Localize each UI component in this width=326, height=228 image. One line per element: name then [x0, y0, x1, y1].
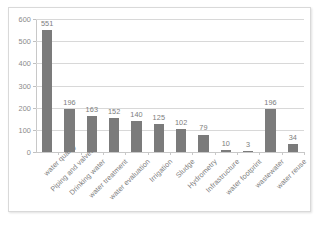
gridline	[36, 19, 304, 20]
x-axis-tick	[237, 152, 238, 155]
x-axis-tick	[192, 152, 193, 155]
y-axis-tick-label: 500	[19, 37, 31, 46]
y-axis-tick-label: 400	[19, 59, 31, 68]
y-axis-tick	[33, 63, 36, 64]
plot-area: 0100200300400500600551196163152140125102…	[36, 19, 304, 152]
gridline	[36, 130, 304, 131]
gridline	[36, 63, 304, 64]
gridline	[36, 41, 304, 42]
y-axis-tick	[33, 41, 36, 42]
bar[interactable]	[154, 124, 164, 152]
y-axis-tick-label: 200	[19, 103, 31, 112]
x-axis-tick	[259, 152, 260, 155]
gridline	[36, 86, 304, 87]
y-axis-tick-label: 100	[19, 125, 31, 134]
bar-value-label: 551	[36, 19, 58, 28]
y-axis-tick	[33, 86, 36, 87]
bar-value-label: 196	[259, 98, 281, 107]
bar[interactable]	[42, 30, 52, 152]
bar-value-label: 152	[103, 107, 125, 116]
x-axis-tick	[215, 152, 216, 155]
x-axis-tick	[282, 152, 283, 155]
bar-value-label: 102	[170, 118, 192, 127]
x-axis-labels: water qualityPiping and valvesDrinking w…	[36, 152, 304, 214]
bar[interactable]	[131, 121, 141, 152]
bar-value-label: 196	[58, 98, 80, 107]
x-axis-tick	[103, 152, 104, 155]
y-axis-tick-label: 0	[27, 148, 31, 157]
y-axis-tick-label: 300	[19, 81, 31, 90]
x-axis-tick	[170, 152, 171, 155]
bar-value-label: 140	[125, 110, 147, 119]
x-axis-tick	[304, 152, 305, 155]
bar-value-label: 3	[237, 140, 259, 149]
bar[interactable]	[288, 144, 298, 152]
bar-value-label: 79	[192, 123, 214, 132]
bar-value-label: 163	[81, 105, 103, 114]
x-axis-tick	[148, 152, 149, 155]
bar[interactable]	[198, 135, 208, 153]
y-axis-tick	[33, 108, 36, 109]
chart-container: 0100200300400500600551196163152140125102…	[8, 7, 311, 212]
bar[interactable]	[176, 129, 186, 152]
bar[interactable]	[265, 109, 275, 152]
bar[interactable]	[109, 118, 119, 152]
bar-value-label: 10	[215, 139, 237, 148]
y-axis-tick-label: 600	[19, 15, 31, 24]
bar-value-label: 125	[148, 113, 170, 122]
y-axis-tick	[33, 130, 36, 131]
gridline	[36, 108, 304, 109]
bar-value-label: 34	[282, 133, 304, 142]
x-axis-tick	[125, 152, 126, 155]
